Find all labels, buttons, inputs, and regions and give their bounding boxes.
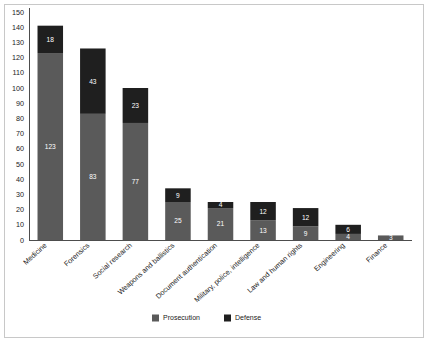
y-tick-label: 10: [16, 220, 24, 229]
x-tick-label-group: Forensics: [62, 241, 91, 269]
bar-value-label-prosecution: 13: [259, 227, 267, 234]
bar-value-label-prosecution: 21: [217, 220, 225, 227]
y-tick-label: 120: [12, 53, 24, 62]
chart-canvas: 0102030405060708090100110120130140150 12…: [0, 0, 428, 342]
x-tick-label: Engineering: [312, 241, 347, 273]
x-tick-label-group: Social research: [91, 241, 134, 281]
y-tick-label: 100: [12, 84, 24, 93]
x-tick-label: Social research: [91, 241, 134, 281]
legend-swatch: [224, 315, 231, 322]
bar-value-label-defense: 12: [302, 214, 310, 221]
y-tick-label: 40: [16, 175, 24, 184]
y-tick-label: 80: [16, 114, 24, 123]
bar-value-label-prosecution: 123: [45, 143, 56, 150]
x-tick-label: Forensics: [62, 241, 91, 269]
y-tick-label: 0: [20, 236, 24, 245]
bar-value-label-defense: 18: [47, 36, 55, 43]
bar-value-label-defense: 6: [346, 226, 350, 233]
x-tick-label: Medicine: [21, 241, 48, 267]
y-tick-label: 30: [16, 190, 24, 199]
bar-value-label-prosecution: 25: [174, 217, 182, 224]
x-tick-label-group: Medicine: [21, 241, 48, 267]
x-tick-label: Finance: [364, 241, 389, 265]
legend-label: Defense: [235, 314, 261, 321]
bar-value-label-prosecution: 3: [389, 234, 393, 241]
y-tick-label: 20: [16, 205, 24, 214]
bar-value-label-defense: 4: [219, 201, 223, 208]
bar-value-label-defense: 23: [132, 102, 140, 109]
bar-value-label-prosecution: 4: [346, 233, 350, 240]
legend-swatch: [152, 315, 159, 322]
stacked-bar-chart: 0102030405060708090100110120130140150 12…: [0, 0, 428, 342]
bar-value-label-prosecution: 77: [132, 178, 140, 185]
bar-value-label-defense: 12: [259, 208, 267, 215]
bar-value-label-defense: 43: [89, 78, 97, 85]
legend-label: Prosecution: [163, 314, 200, 321]
y-tick-label: 70: [16, 129, 24, 138]
x-tick-label-group: Engineering: [312, 241, 347, 273]
y-tick-label: 150: [12, 8, 24, 17]
y-tick-label: 90: [16, 99, 24, 108]
y-tick-label: 110: [13, 68, 24, 77]
y-tick-label: 50: [16, 160, 24, 169]
x-tick-label-group: Finance: [364, 241, 389, 265]
y-tick-label: 60: [16, 144, 24, 153]
bar-value-label-prosecution: 83: [89, 173, 97, 180]
chart-legend: ProsecutionDefense: [152, 314, 261, 321]
bar-value-label-prosecution: 9: [304, 230, 308, 237]
y-axis-tick-labels: 0102030405060708090100110120130140150: [12, 8, 24, 245]
y-tick-label: 140: [12, 23, 24, 32]
bar-value-label-defense: 9: [176, 192, 180, 199]
y-tick-label: 130: [12, 38, 24, 47]
x-axis-tick-labels: MedicineForensicsSocial researchWeapons …: [21, 241, 389, 305]
